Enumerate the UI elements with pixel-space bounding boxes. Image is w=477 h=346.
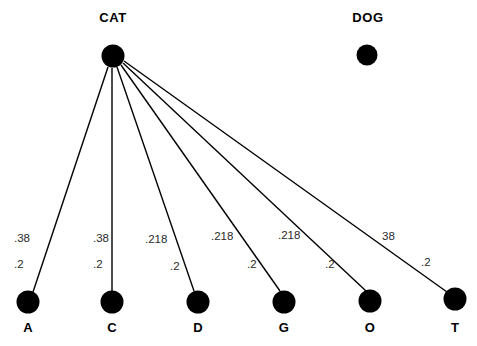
edge-weight-upper-o: .218 (278, 229, 300, 241)
node-label-t: T (451, 320, 459, 335)
diagram-canvas: .38.2.38.2.218.2.218.2.218.238.2 CATDOGA… (0, 0, 477, 346)
node-label-a: A (23, 320, 33, 335)
edge-weight-lower-o: .2 (325, 258, 335, 270)
edge-cat-d (117, 67, 194, 291)
edge-weight-upper-c: .38 (93, 232, 109, 244)
node-label-o: O (365, 320, 375, 335)
node-label-c: C (107, 320, 117, 335)
edge-weight-lower-d: .2 (170, 260, 180, 272)
edge-weight-lower-t: .2 (421, 256, 431, 268)
node-label-dog: DOG (352, 10, 383, 25)
node-label-cat: CAT (99, 10, 127, 25)
edge-cat-t (124, 61, 447, 292)
node-a[interactable] (17, 291, 40, 314)
node-d[interactable] (187, 291, 210, 314)
node-o[interactable] (359, 290, 382, 313)
edge-cat-o (123, 63, 366, 291)
edge-weight-upper-d: .218 (145, 233, 167, 245)
node-t[interactable] (444, 288, 467, 311)
edge-weight-lower-g: .2 (247, 258, 257, 270)
node-g[interactable] (273, 291, 296, 314)
edge-weight-lower-c: .2 (93, 258, 103, 270)
node-c[interactable] (101, 291, 124, 314)
graph-svg: .38.2.38.2.218.2.218.2.218.238.2 CATDOGA… (0, 0, 477, 346)
edge-weight-lower-a: .2 (14, 258, 24, 270)
node-label-g: G (279, 320, 289, 335)
node-cat[interactable] (102, 45, 125, 68)
nodes-group (17, 45, 467, 314)
node-labels-group: CATDOGACDGOT (23, 10, 459, 335)
edge-weight-upper-a: .38 (14, 232, 30, 244)
edge-weight-upper-g: .218 (211, 230, 233, 242)
node-dog[interactable] (357, 45, 378, 66)
edge-weight-upper-t: 38 (382, 230, 395, 242)
node-label-d: D (193, 320, 203, 335)
